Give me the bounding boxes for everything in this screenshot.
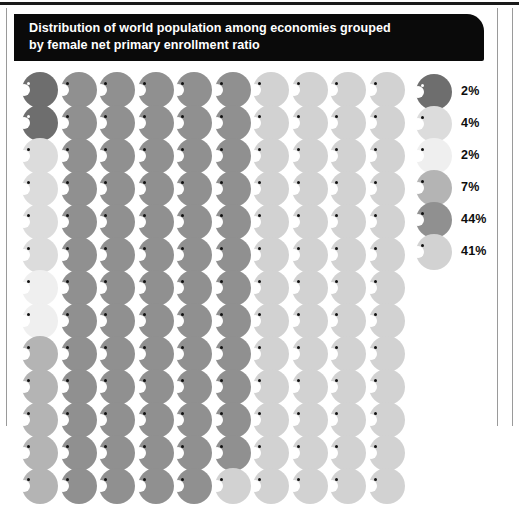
- person-face-notch: [172, 282, 184, 294]
- pictogram-person-icon: [172, 468, 212, 508]
- person-face-notch: [365, 315, 377, 327]
- person-eye-dot: [374, 148, 377, 151]
- legend-item: 2%: [412, 74, 492, 106]
- person-face-notch: [326, 381, 338, 393]
- person-eye-dot: [66, 379, 69, 382]
- person-face-notch: [134, 315, 146, 327]
- person-eye-dot: [66, 115, 69, 118]
- person-eye-dot: [335, 148, 338, 151]
- person-face-notch: [211, 249, 223, 261]
- person-eye-dot: [335, 412, 338, 415]
- person-eye-dot: [258, 247, 261, 250]
- person-face-notch: [57, 414, 69, 426]
- person-face-notch: [326, 282, 338, 294]
- person-face-notch: [288, 183, 300, 195]
- pictogram-row: [18, 171, 403, 204]
- person-face-notch: [172, 84, 184, 96]
- person-face-notch: [326, 249, 338, 261]
- person-eye-dot: [220, 247, 223, 250]
- person-eye-dot: [258, 214, 261, 217]
- person-eye-dot: [374, 379, 377, 382]
- person-face-notch: [249, 447, 261, 459]
- chart-title-banner: Distribution of world population among e…: [14, 14, 484, 61]
- person-eye-dot: [220, 82, 223, 85]
- person-eye-dot: [374, 445, 377, 448]
- person-eye-dot: [143, 181, 146, 184]
- person-eye-dot: [181, 280, 184, 283]
- person-eye-dot: [66, 214, 69, 217]
- person-eye-dot: [27, 346, 30, 349]
- person-eye-dot: [297, 478, 300, 481]
- person-face-notch: [288, 216, 300, 228]
- person-eye-dot: [27, 412, 30, 415]
- person-eye-dot: [66, 82, 69, 85]
- person-face-notch: [18, 183, 30, 195]
- person-face-notch: [365, 381, 377, 393]
- person-face-notch: [249, 216, 261, 228]
- person-eye-dot: [258, 115, 261, 118]
- person-face-notch: [95, 414, 107, 426]
- person-face-notch: [18, 414, 30, 426]
- person-face-notch: [211, 414, 223, 426]
- person-face-notch: [172, 249, 184, 261]
- person-eye-dot: [258, 445, 261, 448]
- person-eye-dot: [104, 148, 107, 151]
- legend-item-label: 4%: [461, 116, 479, 130]
- person-face-notch: [365, 249, 377, 261]
- person-face-notch: [288, 315, 300, 327]
- person-face-notch: [249, 183, 261, 195]
- person-eye-dot: [27, 280, 30, 283]
- pictogram-row: [18, 369, 403, 402]
- person-eye-dot: [220, 214, 223, 217]
- person-eye-dot: [335, 247, 338, 250]
- person-eye-dot: [421, 180, 424, 183]
- person-face-notch: [134, 480, 146, 492]
- person-face-notch: [211, 315, 223, 327]
- person-face-notch: [18, 117, 30, 129]
- person-eye-dot: [220, 346, 223, 349]
- person-face-notch: [172, 381, 184, 393]
- pictogram-row: [18, 435, 403, 468]
- person-face-notch: [57, 315, 69, 327]
- person-eye-dot: [27, 445, 30, 448]
- person-eye-dot: [66, 478, 69, 481]
- person-face-notch: [172, 315, 184, 327]
- person-face-notch: [134, 414, 146, 426]
- person-face-notch: [365, 216, 377, 228]
- person-eye-dot: [181, 313, 184, 316]
- person-eye-dot: [220, 445, 223, 448]
- person-face-notch: [95, 447, 107, 459]
- person-eye-dot: [220, 478, 223, 481]
- person-eye-dot: [143, 82, 146, 85]
- person-eye-dot: [335, 181, 338, 184]
- legend-item: 41%: [412, 234, 492, 266]
- person-eye-dot: [181, 247, 184, 250]
- person-face-notch: [365, 84, 377, 96]
- person-face-notch: [18, 249, 30, 261]
- person-eye-dot: [297, 181, 300, 184]
- person-face-notch: [57, 117, 69, 129]
- person-face-notch: [172, 183, 184, 195]
- person-eye-dot: [220, 412, 223, 415]
- person-face-notch: [18, 282, 30, 294]
- person-face-notch: [412, 214, 424, 226]
- pictogram-person-icon: [326, 468, 366, 508]
- person-face-notch: [134, 216, 146, 228]
- person-eye-dot: [220, 181, 223, 184]
- pictogram-row: [18, 138, 403, 171]
- person-face-notch: [412, 182, 424, 194]
- person-eye-dot: [374, 346, 377, 349]
- person-face-notch: [18, 315, 30, 327]
- person-eye-dot: [66, 412, 69, 415]
- person-eye-dot: [374, 247, 377, 250]
- person-face-notch: [249, 381, 261, 393]
- person-eye-dot: [374, 214, 377, 217]
- person-face-notch: [95, 117, 107, 129]
- person-face-notch: [326, 447, 338, 459]
- person-eye-dot: [374, 313, 377, 316]
- person-eye-dot: [220, 148, 223, 151]
- person-eye-dot: [220, 313, 223, 316]
- person-eye-dot: [297, 148, 300, 151]
- pictogram-row: [18, 72, 403, 105]
- person-eye-dot: [335, 346, 338, 349]
